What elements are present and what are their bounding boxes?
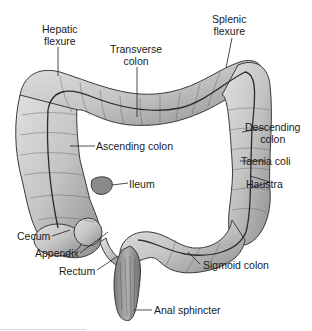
label-line: Descending (245, 121, 300, 133)
label-anal-sphincter: Anal sphincter (154, 304, 221, 316)
label-ascending-colon: Ascending colon (96, 140, 173, 152)
label-line: Splenic (212, 13, 246, 25)
label-splenic-flexure: Splenic flexure (212, 13, 246, 37)
label-sigmoid-colon: Sigmoid colon (203, 259, 269, 271)
label-taenia-coli: Taenia coli (241, 155, 291, 167)
label-haustra: Haustra (246, 178, 283, 190)
descending-colon-shape (222, 62, 271, 245)
divider (0, 329, 86, 330)
label-line: flexure (42, 35, 78, 47)
ileum-shape (91, 177, 112, 195)
label-descending-colon: Descending colon (245, 121, 300, 145)
label-cecum: Cecum (17, 230, 50, 242)
label-rectum: Rectum (59, 265, 95, 277)
label-hepatic-flexure: Hepatic flexure (42, 23, 78, 47)
label-line: Hepatic (42, 23, 78, 35)
label-line: flexure (212, 25, 246, 37)
label-line: colon (245, 133, 300, 145)
label-line: Transverse (110, 43, 162, 55)
label-ileum: Ileum (129, 178, 155, 190)
label-appendix: Appendix (35, 247, 79, 259)
label-transverse-colon: Transverse colon (110, 43, 162, 67)
rectum-shape (114, 246, 141, 320)
label-line: colon (110, 55, 162, 67)
